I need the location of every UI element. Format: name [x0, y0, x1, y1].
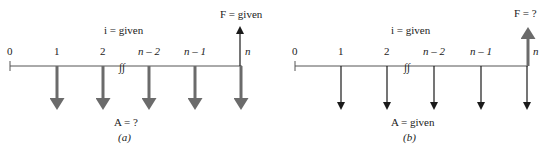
- diagram-a: ∫∫ 0 1 2 n – 2 n – 1 n i = given F = giv…: [7, 8, 263, 144]
- annuity-arrows: [341, 66, 527, 106]
- period-label-0: 0: [7, 45, 13, 57]
- period-label-n-2: n – 2: [423, 45, 446, 57]
- future-value-label: F = ?: [514, 7, 537, 19]
- period-label-1: 1: [54, 45, 60, 57]
- period-label-0: 0: [292, 45, 298, 57]
- future-value-label: F = given: [220, 8, 263, 20]
- annuity-label: A = ?: [114, 116, 138, 128]
- period-label-2: 2: [384, 45, 390, 57]
- diagram-b: ∫∫ 0 1 2 n – 2 n – 1 n i = given F = ? A…: [292, 7, 539, 144]
- period-label-n-1: n – 1: [184, 45, 206, 57]
- period-label-n-2: n – 2: [138, 45, 161, 57]
- period-label-1: 1: [338, 45, 344, 57]
- cash-flow-diagrams: ∫∫ 0 1 2 n – 2 n – 1 n i = given F = giv…: [0, 0, 545, 150]
- caption: (a): [118, 131, 131, 144]
- annuity-arrows: [57, 66, 241, 104]
- period-label-n-1: n – 1: [470, 45, 492, 57]
- interest-label: i = given: [391, 24, 431, 36]
- period-label-n: n: [533, 45, 539, 57]
- caption: (b): [403, 131, 416, 144]
- annuity-label: A = given: [391, 116, 435, 128]
- axis-break-icon: ∫∫: [118, 61, 126, 74]
- period-label-n: n: [245, 45, 251, 57]
- period-label-2: 2: [100, 45, 106, 57]
- axis-break-icon: ∫∫: [403, 61, 411, 74]
- interest-label: i = given: [104, 24, 144, 36]
